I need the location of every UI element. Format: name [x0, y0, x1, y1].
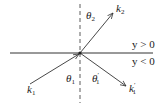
transmitted-vector-k2: [80, 13, 113, 53]
label-k1: k1: [27, 83, 36, 97]
origin-point: [78, 51, 81, 54]
label-k1-prime: k′1: [129, 81, 136, 96]
label-k2: k2: [116, 2, 125, 16]
label-theta1: θ1: [66, 72, 75, 86]
refraction-diagram: k2 θ2 y > 0 y < 0 θ1 θ′1 k1 k′1: [0, 0, 165, 103]
label-theta1-prime: θ′1: [92, 71, 100, 86]
reflected-vector-k1-prime: [80, 53, 126, 86]
label-y-positive: y > 0: [132, 38, 155, 50]
label-y-negative: y < 0: [132, 55, 155, 67]
label-theta2: θ2: [86, 9, 95, 23]
